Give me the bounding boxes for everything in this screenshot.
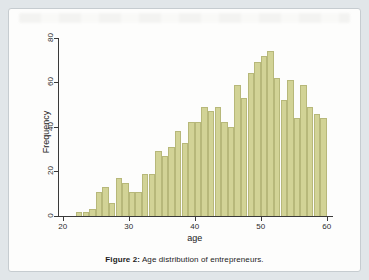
histogram-bar-age-51 xyxy=(267,51,274,216)
histogram-bar-age-28 xyxy=(116,178,123,216)
y-tick-20 xyxy=(54,171,58,172)
y-tick-60 xyxy=(54,82,58,83)
y-tick-label-20: 20 xyxy=(46,160,55,182)
x-tick-40 xyxy=(195,217,196,221)
histogram-bar-age-44 xyxy=(221,122,228,216)
histogram-bar-age-25 xyxy=(96,192,103,217)
histogram-bar-age-46 xyxy=(234,85,241,216)
histogram-bar-age-50 xyxy=(261,56,268,216)
histogram-bar-age-43 xyxy=(215,107,222,216)
x-tick-30 xyxy=(129,217,130,221)
x-tick-label-30: 30 xyxy=(119,222,139,231)
histogram-bar-age-47 xyxy=(241,98,248,216)
histogram-bar-age-30 xyxy=(129,192,136,217)
y-tick-80 xyxy=(54,38,58,39)
histogram-bar-age-53 xyxy=(281,100,288,216)
histogram-bar-age-26 xyxy=(102,187,109,216)
histogram-bar-age-37 xyxy=(175,131,182,216)
histogram-bar-age-54 xyxy=(287,80,294,216)
figure-caption-text: Age distribution of entrepreneurs. xyxy=(140,255,264,264)
histogram-bar-age-34 xyxy=(155,151,162,216)
y-tick-label-80: 80 xyxy=(46,26,55,48)
histogram-bar-age-32 xyxy=(142,174,149,216)
x-tick-label-50: 50 xyxy=(251,222,271,231)
x-axis-title: age xyxy=(165,233,225,243)
x-tick-label-20: 20 xyxy=(53,222,73,231)
x-tick-50 xyxy=(261,217,262,221)
x-tick-20 xyxy=(63,217,64,221)
histogram-bar-age-31 xyxy=(135,192,142,217)
histogram-bar-age-27 xyxy=(109,203,116,216)
x-tick-label-60: 60 xyxy=(317,222,337,231)
figure-card: 0204060802030405060 Frequency age Figure… xyxy=(8,8,361,272)
y-axis-title: Frequency xyxy=(41,111,51,154)
histogram-bar-age-56 xyxy=(300,85,307,216)
x-tick-60 xyxy=(327,217,328,221)
histogram-bar-age-49 xyxy=(254,62,261,216)
histogram-bar-age-41 xyxy=(201,107,208,216)
histogram-bar-age-59 xyxy=(320,118,327,216)
histogram-bar-age-40 xyxy=(195,122,202,216)
histogram-bar-age-58 xyxy=(314,114,321,217)
histogram-bar-age-24 xyxy=(89,209,96,216)
figure-caption-label: Figure 2: xyxy=(105,255,140,264)
histogram-bar-age-39 xyxy=(188,122,195,216)
histogram-bar-age-38 xyxy=(182,143,189,217)
histogram-bar-age-36 xyxy=(168,147,175,216)
histogram-bar-age-52 xyxy=(274,78,281,216)
histogram-bar-age-33 xyxy=(149,174,156,216)
histogram-bar-age-35 xyxy=(162,156,169,216)
figure-caption: Figure 2: Age distribution of entreprene… xyxy=(9,255,360,264)
histogram-bar-age-48 xyxy=(248,73,255,216)
histogram-bar-age-55 xyxy=(294,118,301,216)
histogram-bar-age-42 xyxy=(208,111,215,216)
histogram-bar-age-29 xyxy=(122,183,129,216)
histogram-bar-age-45 xyxy=(228,127,235,216)
histogram-plot: 0204060802030405060 Frequency age xyxy=(9,9,360,271)
x-tick-label-40: 40 xyxy=(185,222,205,231)
histogram-bar-age-57 xyxy=(307,107,314,216)
y-tick-label-60: 60 xyxy=(46,71,55,93)
y-tick-0 xyxy=(54,216,58,217)
figure-background: 0204060802030405060 Frequency age Figure… xyxy=(0,0,369,280)
y-tick-40 xyxy=(54,127,58,128)
y-axis-line xyxy=(58,38,59,216)
